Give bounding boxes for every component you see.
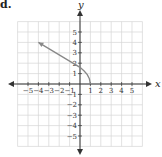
x-axis-left-arrow-icon <box>8 81 14 87</box>
y-tick-label: 4 <box>73 39 78 47</box>
x-tick-label: 2 <box>99 87 103 95</box>
x-tick-label: −2 <box>54 87 64 95</box>
x-tick-label: −3 <box>44 87 54 95</box>
y-tick-label: −3 <box>67 112 77 120</box>
x-tick-label: 4 <box>119 87 124 95</box>
y-tick-label: −5 <box>67 133 77 141</box>
y-tick-label: −4 <box>67 122 78 130</box>
y-axis-down-arrow-icon <box>77 149 83 155</box>
x-tick-label: 5 <box>130 87 134 95</box>
x-tick-label: −5 <box>23 87 33 95</box>
y-tick-label: 1 <box>73 70 77 78</box>
y-axis-up-arrow-icon <box>77 10 83 16</box>
x-axis-label: x <box>155 78 161 89</box>
x-tick-label: 1 <box>88 87 92 95</box>
y-tick-label: 3 <box>73 49 77 57</box>
y-axis-label: y <box>77 0 84 10</box>
y-tick-label: −1 <box>67 91 77 99</box>
y-tick-label: −2 <box>67 101 77 109</box>
x-axis-right-arrow-icon <box>146 81 152 87</box>
x-tick-label: 3 <box>109 87 113 95</box>
coordinate-plane: xy−5−4−3−2−11234554321−1−2−3−4−5 <box>0 0 162 157</box>
y-tick-label: 5 <box>73 29 77 37</box>
x-tick-label: −4 <box>33 87 44 95</box>
